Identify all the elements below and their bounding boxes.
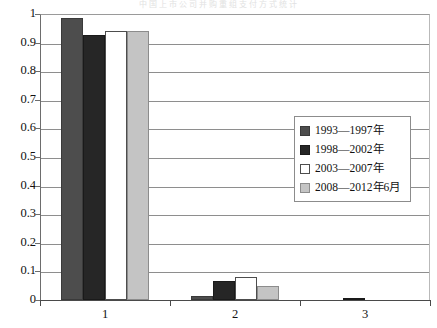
y-axis-tick-mark [35, 243, 40, 244]
y-axis-tick-mark [35, 14, 40, 15]
y-axis-tick-mark [35, 128, 40, 129]
x-axis-tick-label: 3 [345, 307, 385, 322]
x-axis-tick-label: 1 [85, 307, 125, 322]
x-axis-tick-mark [300, 300, 301, 306]
y-axis-tick-label: 0.1 [2, 264, 36, 276]
y-axis-tick-mark [35, 214, 40, 215]
x-axis-tick-mark [170, 300, 171, 306]
y-axis-tick-label: 0.6 [2, 121, 36, 133]
legend-swatch [300, 164, 310, 174]
legend-item: 1993—1997年 [300, 121, 405, 140]
y-axis-tick-mark [35, 71, 40, 72]
bar [127, 31, 149, 300]
y-axis-tick-label: 0.8 [2, 64, 36, 76]
y-axis-tick-mark [35, 186, 40, 187]
legend-label: 1998—2002年 [315, 144, 384, 156]
y-axis-tick-mark [35, 271, 40, 272]
y-axis-tick-label: 0.3 [2, 207, 36, 219]
legend-item: 1998—2002年 [300, 140, 405, 159]
y-axis-tick-mark [35, 100, 40, 101]
y-axis-tick-label: 0.4 [2, 179, 36, 191]
legend-swatch [300, 126, 310, 136]
legend-swatch [300, 145, 310, 155]
x-axis-tick-label: 2 [215, 307, 255, 322]
x-axis-line [40, 300, 431, 301]
y-axis-tick-label: 1 [2, 7, 36, 19]
bar [213, 281, 235, 300]
legend-item: 2003—2007年 [300, 159, 405, 178]
y-axis-tick-mark [35, 43, 40, 44]
legend-label: 2003—2007年 [315, 163, 384, 175]
x-axis-tick-mark [40, 300, 41, 306]
y-axis-tick-label: 0.2 [2, 236, 36, 248]
y-axis-tick-label: 0.9 [2, 36, 36, 48]
legend-label: 1993—1997年 [315, 125, 384, 137]
bar [105, 31, 127, 300]
y-axis-labels: 10.90.80.70.60.50.40.30.20.10 [0, 0, 36, 328]
y-axis-tick-label: 0 [2, 293, 36, 305]
bar [235, 277, 257, 300]
x-axis-tick-mark [430, 300, 431, 306]
bar [61, 18, 83, 300]
legend: 1993—1997年1998—2002年2003—2007年2008—2012年… [294, 116, 411, 202]
legend-item: 2008—2012年6月 [300, 178, 405, 197]
y-axis-tick-label: 0.5 [2, 150, 36, 162]
bar [257, 286, 279, 300]
legend-swatch [300, 183, 310, 193]
bar [191, 296, 213, 300]
bar [83, 35, 105, 300]
y-axis-tick-mark [35, 157, 40, 158]
y-axis-tick-label: 0.7 [2, 93, 36, 105]
grouped-bar-chart: 10.90.80.70.60.50.40.30.20.10 1993—1997年… [0, 0, 437, 328]
legend-label: 2008—2012年6月 [315, 182, 400, 194]
bar [343, 298, 365, 300]
